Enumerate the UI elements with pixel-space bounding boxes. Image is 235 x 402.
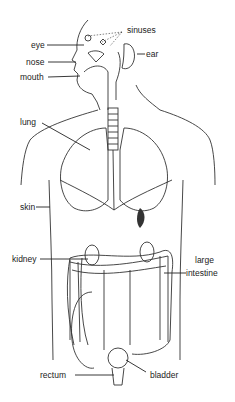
esophagus: [113, 150, 114, 210]
ear-shape: [122, 44, 135, 69]
left-lung: [61, 128, 109, 211]
rectum-shape: [112, 368, 124, 385]
nasal-cavity: [88, 51, 104, 62]
label-lung: lung: [20, 117, 36, 127]
label-skin: skin: [20, 202, 35, 212]
label-sinuses: sinuses: [127, 25, 156, 35]
leader-lines: [36, 32, 186, 375]
label-large: large: [195, 255, 214, 265]
label-mouth: mouth: [20, 72, 44, 82]
label-bladder: bladder: [150, 370, 179, 380]
large-intestine: [67, 250, 172, 368]
body-outline: [21, 20, 215, 360]
label-eye: eye: [31, 40, 45, 50]
label-ear: ear: [146, 49, 158, 59]
diaphragm: [60, 180, 172, 210]
anatomy-diagram: sinuses eye ear nose mouth lung skin kid…: [0, 0, 235, 402]
label-kidney: kidney: [12, 254, 37, 264]
label-rectum: rectum: [40, 370, 66, 380]
right-lung: [120, 128, 168, 211]
label-intestine: intestine: [186, 268, 218, 278]
bladder-shape: [108, 348, 128, 368]
sinus-shape: [100, 39, 106, 45]
label-nose: nose: [26, 57, 45, 67]
throat: [84, 66, 108, 110]
trachea: [108, 108, 118, 150]
